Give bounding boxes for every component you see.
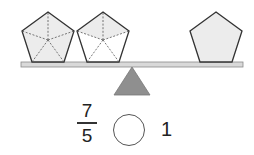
pentagon-whole <box>190 12 242 62</box>
pentagon-two-fifths-shaded <box>77 12 129 62</box>
balance-scale-diagram <box>0 0 254 100</box>
fraction-numerator: 7 <box>77 101 97 120</box>
right-value-one: 1 <box>161 119 172 139</box>
fraction-denominator: 5 <box>77 126 97 145</box>
fulcrum-triangle <box>114 67 150 95</box>
fraction-bar <box>77 122 97 124</box>
comparison-answer-circle[interactable] <box>113 114 145 146</box>
pentagon-fully-shaded <box>22 12 74 62</box>
fraction-seven-fifths: 7 5 <box>77 101 97 145</box>
scale-beam <box>21 62 243 67</box>
